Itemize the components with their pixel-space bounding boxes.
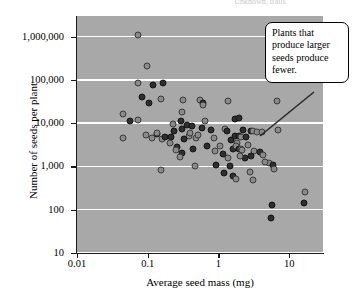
y-axis-title: Number of seeds per plant xyxy=(27,46,39,236)
gridline-y-2 xyxy=(77,166,323,168)
data-point xyxy=(134,116,141,123)
data-point xyxy=(172,147,179,154)
data-point xyxy=(178,109,185,116)
data-point xyxy=(243,133,250,140)
data-point xyxy=(244,142,251,149)
data-point xyxy=(240,127,247,134)
y-tick-label-0: 10 xyxy=(54,248,65,259)
x-tick-label-3: 10 xyxy=(284,258,295,269)
data-point xyxy=(236,114,243,121)
data-point xyxy=(134,80,141,87)
data-point xyxy=(224,98,231,105)
data-point xyxy=(274,98,281,105)
gridline-y-1 xyxy=(77,209,323,211)
data-point xyxy=(210,134,217,141)
header-caption: Unknown, trails xyxy=(200,0,320,5)
seed-mass-scatter-figure: Unknown, trails 101001,00010,000100,0001… xyxy=(0,0,354,298)
data-point xyxy=(247,153,254,160)
data-point xyxy=(220,170,227,177)
y-tick-label-5: 1,000,000 xyxy=(22,31,64,42)
data-point xyxy=(268,201,275,208)
data-point xyxy=(226,163,233,170)
y-tick-5 xyxy=(71,37,76,38)
data-point xyxy=(190,146,197,153)
y-tick-label-2: 1,000 xyxy=(40,161,64,172)
data-point xyxy=(233,175,240,182)
y-tick-0 xyxy=(71,253,76,254)
data-point xyxy=(203,142,210,149)
x-axis-title: Average seed mass (mg) xyxy=(77,276,323,288)
x-tick-label-0: 0.01 xyxy=(68,258,86,269)
data-point xyxy=(149,134,156,141)
y-tick-4 xyxy=(71,80,76,81)
data-point xyxy=(301,200,308,207)
data-point xyxy=(160,80,167,87)
data-point xyxy=(301,189,308,196)
data-point xyxy=(158,96,165,103)
y-tick-label-1: 100 xyxy=(48,204,64,215)
data-point xyxy=(139,94,146,101)
data-point xyxy=(259,151,266,158)
data-point xyxy=(120,135,127,142)
data-point xyxy=(212,147,219,154)
data-point xyxy=(268,215,275,222)
x-tick-label-2: 1 xyxy=(216,258,221,269)
y-axis-line xyxy=(76,16,77,254)
callout-box: Plants that produce larger seeds produce… xyxy=(265,22,349,83)
data-point xyxy=(258,128,265,135)
data-point xyxy=(135,31,142,38)
data-point xyxy=(177,154,184,161)
data-point xyxy=(192,162,199,169)
data-point xyxy=(166,139,173,146)
data-point xyxy=(119,111,126,118)
data-point xyxy=(195,132,202,139)
data-point xyxy=(225,154,232,161)
data-point xyxy=(274,126,281,133)
data-point xyxy=(158,166,165,173)
data-point xyxy=(207,126,214,133)
y-tick-1 xyxy=(71,210,76,211)
data-point xyxy=(246,168,253,175)
data-point xyxy=(250,176,257,183)
x-axis-line xyxy=(76,253,324,254)
data-point xyxy=(180,96,187,103)
data-point xyxy=(186,129,193,136)
data-point xyxy=(178,126,185,133)
data-point xyxy=(169,121,176,128)
y-tick-3 xyxy=(71,123,76,124)
data-point xyxy=(181,136,188,143)
data-point xyxy=(223,128,230,135)
data-point xyxy=(198,124,205,131)
data-point xyxy=(127,118,134,125)
y-tick-label-3: 10,000 xyxy=(35,118,64,129)
data-point xyxy=(144,62,151,69)
data-point xyxy=(146,99,153,106)
data-point xyxy=(271,165,278,172)
y-tick-2 xyxy=(71,166,76,167)
data-point xyxy=(150,82,157,89)
x-tick-label-1: 0.1 xyxy=(141,258,154,269)
data-point xyxy=(227,136,234,143)
data-point xyxy=(262,159,269,166)
data-point xyxy=(212,161,219,168)
data-point xyxy=(236,152,243,159)
data-point xyxy=(199,101,206,108)
